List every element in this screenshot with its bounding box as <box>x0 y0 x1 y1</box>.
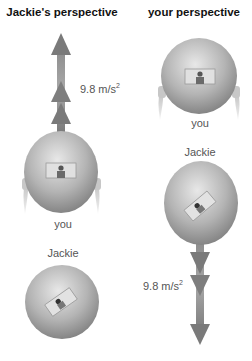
left-jackie-label: Jackie <box>47 247 78 259</box>
you-spaceship-left <box>22 131 101 214</box>
up-acceleration-arrow <box>51 33 71 133</box>
diagram-canvas <box>0 0 252 361</box>
right-acceleration-label: 9.8 m/s2 <box>143 279 183 292</box>
right-panel-title: your perspective <box>148 6 240 18</box>
left-acceleration-label: 9.8 m/s2 <box>80 82 120 95</box>
left-panel-title: Jackie's perspective <box>6 6 117 18</box>
you-spaceship-right <box>158 38 240 120</box>
right-you-label: you <box>191 117 209 129</box>
right-jackie-label: Jackie <box>184 146 215 158</box>
down-acceleration-arrow <box>190 238 210 345</box>
jackie-spaceship-left <box>25 265 99 339</box>
jackie-spaceship-right <box>164 161 238 245</box>
left-you-label: you <box>54 218 72 230</box>
